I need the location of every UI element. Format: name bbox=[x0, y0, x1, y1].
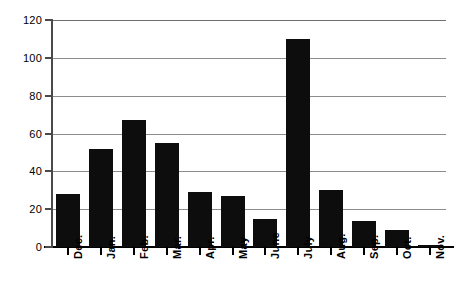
x-tick-label: Dec. bbox=[73, 235, 84, 259]
x-tick-label: May bbox=[238, 237, 249, 259]
y-tick-label: 120 bbox=[23, 15, 42, 26]
y-tick-mark bbox=[45, 95, 53, 97]
y-tick-label: 20 bbox=[29, 204, 42, 215]
x-tick-mark bbox=[429, 246, 431, 255]
x-tick-label: July bbox=[303, 236, 314, 259]
x-tick-mark bbox=[264, 246, 266, 255]
x-tick-mark bbox=[330, 246, 332, 255]
bar bbox=[89, 149, 113, 247]
bar bbox=[155, 143, 179, 247]
gridline bbox=[52, 96, 446, 97]
y-tick-label: 100 bbox=[23, 52, 42, 63]
gridline bbox=[52, 20, 446, 21]
y-tick-mark bbox=[45, 57, 53, 59]
x-tick-mark bbox=[166, 246, 168, 255]
x-tick-mark bbox=[232, 246, 234, 255]
x-tick-label: Apr. bbox=[205, 236, 216, 259]
x-tick-label: Sep. bbox=[369, 235, 380, 259]
y-tick-mark bbox=[45, 208, 53, 210]
x-tick-label: Aug. bbox=[336, 233, 347, 259]
y-tick-mark bbox=[45, 133, 53, 135]
bar-chart: 020406080100120 Dec.Jan.Feb.Mar.Apr.MayJ… bbox=[0, 0, 473, 299]
x-tick-label: Feb. bbox=[139, 235, 150, 259]
x-tick-mark bbox=[100, 246, 102, 255]
x-tick-label: Jan. bbox=[106, 236, 117, 259]
x-tick-mark bbox=[133, 246, 135, 255]
x-tick-mark bbox=[396, 246, 398, 255]
y-tick-label: 80 bbox=[29, 90, 42, 101]
x-tick-label: Mar. bbox=[172, 236, 183, 259]
x-tick-label: June bbox=[270, 232, 281, 259]
x-tick-mark bbox=[199, 246, 201, 255]
x-tick-label: Nov. bbox=[435, 235, 446, 259]
y-tick-label: 60 bbox=[29, 128, 42, 139]
x-tick-label: Oct. bbox=[402, 236, 413, 259]
y-tick-mark bbox=[45, 246, 53, 248]
y-tick-mark bbox=[45, 19, 53, 21]
x-tick-mark bbox=[297, 246, 299, 255]
gridline bbox=[52, 58, 446, 59]
x-tick-mark bbox=[67, 246, 69, 255]
y-tick-label: 0 bbox=[36, 242, 42, 253]
bar bbox=[286, 39, 310, 247]
y-tick-mark bbox=[45, 170, 53, 172]
x-tick-mark bbox=[363, 246, 365, 255]
plot-area bbox=[52, 20, 446, 247]
gridline bbox=[52, 134, 446, 135]
y-tick-label: 40 bbox=[29, 166, 42, 177]
bar bbox=[122, 120, 146, 247]
